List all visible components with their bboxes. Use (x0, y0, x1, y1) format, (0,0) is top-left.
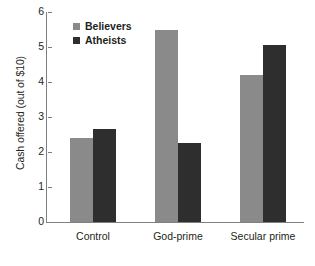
y-tick-mark (48, 47, 52, 48)
y-tick-label: 5 (38, 40, 44, 53)
legend-item-believers[interactable]: Believers (73, 19, 132, 33)
legend-swatch-icon (73, 23, 80, 30)
y-tick-label: 4 (38, 75, 44, 88)
bar-control-believers (70, 138, 93, 222)
y-tick-label: 0 (38, 215, 44, 228)
y-tick-label: 6 (38, 5, 44, 18)
y-tick-mark (48, 187, 52, 188)
bar-god-prime-atheists (178, 143, 201, 222)
x-axis-label: God-prime (133, 230, 223, 242)
y-tick: 2 (4, 152, 52, 153)
y-tick: 4 (4, 82, 52, 83)
bar-chart: Cash offered (out of $10) 0123456 Contro… (0, 0, 315, 266)
legend-swatch-icon (73, 37, 80, 44)
y-tick: 5 (4, 47, 52, 48)
y-tick-label: 2 (38, 145, 44, 158)
y-tick-label: 1 (38, 180, 44, 193)
y-tick-mark (48, 82, 52, 83)
chart-legend: Believers Atheists (73, 19, 132, 47)
y-tick-label: 3 (38, 110, 44, 123)
legend-label: Believers (85, 20, 132, 32)
y-tick-mark (48, 152, 52, 153)
x-axis-line (46, 222, 304, 223)
y-axis-title: Cash offered (out of $10) (10, 2, 30, 224)
bar-secular-prime-believers (240, 75, 263, 222)
y-tick: 6 (4, 12, 52, 13)
bar-control-atheists (93, 129, 116, 222)
bar-god-prime-believers (155, 30, 178, 223)
y-tick-mark (48, 117, 52, 118)
y-tick: 0 (4, 222, 52, 223)
x-axis-label: Secular prime (218, 230, 308, 242)
bar-secular-prime-atheists (263, 45, 286, 222)
x-axis-label: Control (48, 230, 138, 242)
legend-label: Atheists (85, 34, 126, 46)
legend-item-atheists[interactable]: Atheists (73, 33, 132, 47)
y-tick-mark (48, 222, 52, 223)
y-tick: 3 (4, 117, 52, 118)
y-tick: 1 (4, 187, 52, 188)
y-tick-mark (48, 12, 52, 13)
